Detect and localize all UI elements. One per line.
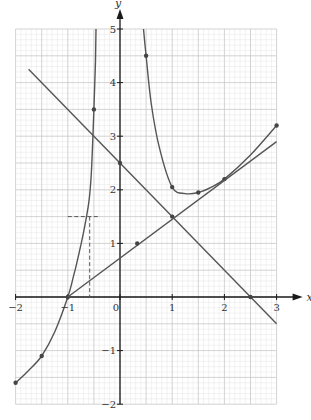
grid-major	[16, 29, 277, 404]
series-right-curve	[144, 29, 277, 194]
axes	[16, 9, 303, 404]
y-tick-label: 3	[110, 131, 116, 142]
data-point-marker	[144, 54, 148, 58]
data-point-marker	[40, 354, 44, 358]
y-tick-label: −2	[101, 399, 116, 410]
data-point-marker	[118, 161, 122, 165]
x-tick-label: 2	[221, 302, 227, 313]
y-tick-label: 5	[110, 24, 116, 35]
data-point-marker	[13, 381, 17, 385]
data-point-marker	[196, 190, 200, 194]
x-tick-label: −2	[8, 302, 23, 313]
data-point-marker	[248, 295, 252, 299]
y-tick-label: 4	[110, 77, 116, 88]
x-tick-label: −1	[60, 302, 75, 313]
data-point-marker	[274, 123, 278, 127]
y-tick-label: −1	[101, 345, 116, 356]
x-tick-label: 0	[113, 302, 119, 313]
y-tick-label: 2	[110, 184, 116, 195]
x-tick-label: 1	[169, 302, 175, 313]
x-axis-label: x	[307, 291, 311, 304]
x-tick-label: 3	[273, 302, 279, 313]
y-axis-label: y	[114, 0, 122, 10]
data-point-marker	[92, 107, 96, 111]
y-tick-label: 1	[110, 238, 116, 249]
data-point-marker	[135, 241, 139, 245]
function-graph: −2−10123−2−112345xy	[0, 0, 311, 420]
tick-labels: −2−10123−2−112345xy	[8, 0, 311, 410]
data-point-marker	[170, 185, 174, 189]
series-decreasing-line	[29, 69, 277, 324]
x-axis-arrow-icon	[293, 294, 303, 301]
y-axis-arrow-icon	[117, 9, 124, 19]
